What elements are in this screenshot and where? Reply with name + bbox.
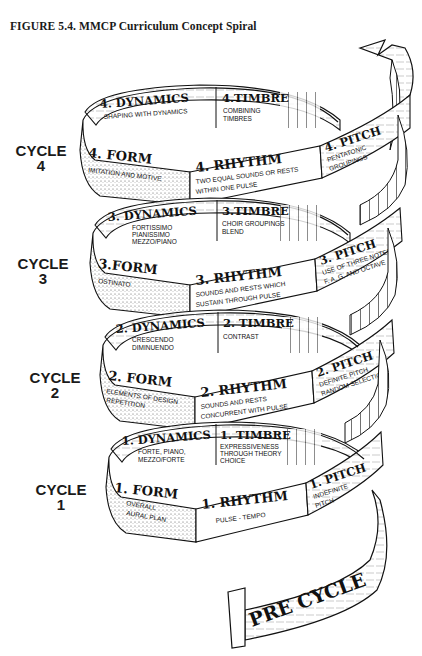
cycle-2-timbre-heading: 2. TIMBRE [223,316,294,330]
cycle-1-band: 1. DYNAMICS FORTE, PIANO, MEZZO/FORTE 1.… [106,422,383,542]
cycle-4-timbre-text-1: COMBINING [223,107,261,114]
cycle-2-timbre-text: CONTRAST [223,333,259,340]
cycle-2-dynamics-heading: 2. DYNAMICS [115,316,205,336]
cycle-1-timbre-heading: 1. TIMBRE [220,428,291,442]
cycle-3-dynamics-text-3: MEZZO/PIANO [132,238,177,245]
cycle-1-timbre-text-1: EXPRESSIVENESS [220,443,280,450]
cycle-4-timbre-heading: 4.TIMBRE [222,91,289,105]
cycle-2-dynamics-text-1: CRESCENDO [132,336,174,343]
cycle-4-timbre-text-2: TIMBRES [223,115,253,122]
cycle-2-dynamics-text-2: DIMINUENDO [132,344,174,351]
cycle-3-timbre-text-1: CHOIR GROUPINGS [222,220,285,227]
cycle-3-band: 3. DYNAMICS FORTISSIMO PIANISSIMO MEZZO/… [90,198,402,318]
concept-spiral-diagram: 4. DYNAMICS SHAPING WITH DYNAMICS 4.TIMB… [0,0,422,656]
cycle-3-timbre-heading: 3.TIMBRE [222,204,289,218]
cycle-4-band: 4. DYNAMICS SHAPING WITH DYNAMICS 4.TIMB… [80,85,410,205]
cycle-3-dynamics-text-2: PIANISSIMO [132,231,170,238]
cycle-1-timbre-text-2: THROUGH THEORY [220,450,282,457]
cycle-1-dynamics-heading: 1. DYNAMICS [121,428,211,448]
cycle-1-dynamics-text-2: MEZZO/FORTE [138,456,185,463]
cycle-3-timbre-text-2: BLEND [222,228,244,235]
cycle-3-dynamics-heading: 3. DYNAMICS [107,204,197,224]
cycle-1-dynamics-text-1: FORTE, PIANO, [138,448,186,455]
cycle-3-dynamics-text-1: FORTISSIMO [132,224,172,231]
cycle-1-timbre-text-3: CHOICE [220,457,246,464]
